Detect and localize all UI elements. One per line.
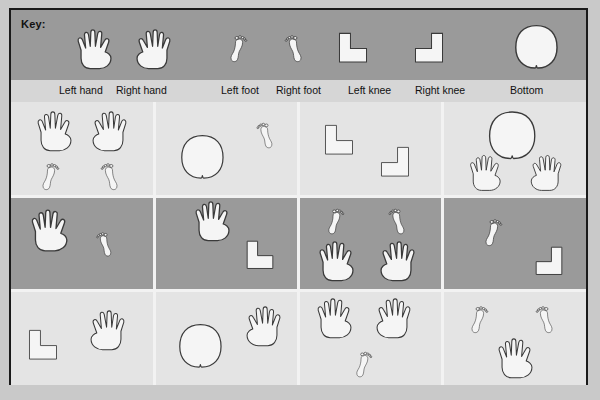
- left-knee-icon: [319, 122, 359, 160]
- grid-column-separator: [441, 102, 444, 385]
- left-hand-icon: [315, 238, 361, 290]
- cell-r1c2[interactable]: [155, 102, 299, 196]
- left-knee-icon: [333, 30, 373, 72]
- cell-r2c4[interactable]: [442, 196, 586, 290]
- right-foot-icon: [279, 26, 305, 76]
- cell-r2c1[interactable]: [11, 196, 155, 290]
- key-caption: Right foot: [276, 84, 321, 96]
- left-knee-icon: [23, 327, 63, 365]
- right-foot-icon: [95, 154, 121, 196]
- right-knee-icon: [409, 30, 449, 72]
- left-foot-icon: [468, 297, 494, 343]
- worksheet-frame: Key: Left handRight handLeft footRight f…: [9, 8, 588, 385]
- right-knee-icon: [530, 244, 568, 280]
- right-hand-icon: [85, 108, 131, 160]
- right-hand-icon: [373, 238, 419, 290]
- cell-r1c3[interactable]: [299, 102, 443, 196]
- right-hand-icon: [83, 307, 129, 359]
- cell-r2c3[interactable]: [299, 196, 443, 290]
- right-knee-icon: [375, 144, 415, 182]
- right-hand-icon: [369, 295, 415, 347]
- key-caption: Right knee: [415, 84, 465, 96]
- cell-r3c1[interactable]: [11, 291, 155, 385]
- right-hand-icon: [524, 152, 565, 196]
- key-caption: Bottom: [510, 84, 543, 96]
- grid-row-separator: [11, 289, 586, 292]
- grid-column-separator: [153, 102, 156, 385]
- key-icon-row: [11, 10, 586, 80]
- key-band: Key:: [11, 10, 586, 80]
- right-foot-icon: [91, 224, 114, 265]
- left-hand-icon: [466, 152, 507, 196]
- left-hand-icon: [313, 295, 359, 347]
- key-caption: Right hand: [116, 84, 167, 96]
- left-foot-icon: [227, 26, 253, 76]
- left-hand-icon: [27, 206, 75, 261]
- key-caption: Left foot: [221, 84, 259, 96]
- key-caption: Left hand: [59, 84, 103, 96]
- left-foot-icon: [353, 343, 378, 385]
- bottom-icon: [173, 132, 232, 187]
- bottom-icon: [507, 22, 566, 81]
- left-hand-icon: [33, 108, 79, 160]
- activity-grid: [11, 102, 586, 385]
- cell-r3c2[interactable]: [155, 291, 299, 385]
- left-knee-icon: [241, 238, 279, 274]
- key-caption-band: Left handRight handLeft footRight footLe…: [11, 80, 586, 102]
- grid-column-separator: [297, 102, 300, 385]
- left-hand-icon: [191, 198, 237, 250]
- left-hand-icon: [494, 335, 540, 385]
- worksheet-page: Key: Left handRight handLeft footRight f…: [0, 0, 600, 400]
- right-foot-icon: [251, 114, 276, 158]
- right-hand-icon: [239, 303, 285, 355]
- key-caption: Left knee: [348, 84, 391, 96]
- grid-row-separator: [11, 195, 586, 198]
- right-hand-icon: [129, 26, 175, 82]
- cell-r2c2[interactable]: [155, 196, 299, 290]
- cell-r1c4[interactable]: [442, 102, 586, 196]
- bottom-icon: [171, 321, 230, 376]
- left-foot-icon: [39, 154, 65, 196]
- cell-r3c3[interactable]: [299, 291, 443, 385]
- left-hand-icon: [73, 26, 119, 82]
- cell-r3c4[interactable]: [442, 291, 586, 385]
- cell-r1c1[interactable]: [11, 102, 155, 196]
- left-foot-icon: [482, 210, 508, 256]
